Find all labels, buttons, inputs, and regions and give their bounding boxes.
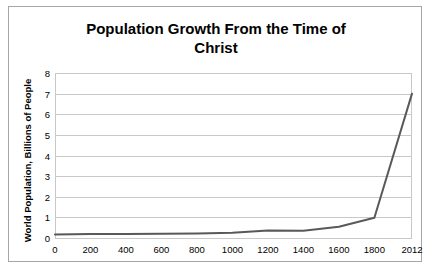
x-tick-label: 1800 [364,244,385,255]
y-tick-label: 5 [45,129,50,140]
chart-title: Population Growth From the Time of Chris… [49,19,383,57]
x-tick-label: 600 [154,244,170,255]
y-tick-label: 4 [45,150,50,161]
y-tick-label: 7 [45,88,50,99]
x-tick-label: 200 [83,244,99,255]
x-tick-label: 1400 [293,244,314,255]
chart-title-line-1: Population Growth From the Time of [49,19,383,38]
x-tick-label: 1000 [222,244,243,255]
y-tick-label: 1 [45,212,50,223]
chart-frame: Population Growth From the Time of Chris… [8,6,422,262]
x-tick-label: 400 [118,244,134,255]
y-axis-title: World Population, Billions of People [22,71,33,251]
y-tick-label: 6 [45,109,50,120]
line-series [55,73,412,238]
plot-area: 012345678 020040060080010001200140016001… [55,73,412,238]
y-tick-label: 2 [45,191,50,202]
x-tick-label: 800 [189,244,205,255]
chart-title-line-2: Christ [49,38,383,57]
y-tick-label: 8 [45,68,50,79]
y-tick-label: 3 [45,171,50,182]
x-tick-label: 1600 [328,244,349,255]
x-tick-label: 0 [52,244,57,255]
gridline [55,238,412,239]
x-tick-label: 1200 [257,244,278,255]
x-tick-label: 2012 [401,244,422,255]
series-line [55,94,412,235]
y-tick-label: 0 [45,233,50,244]
